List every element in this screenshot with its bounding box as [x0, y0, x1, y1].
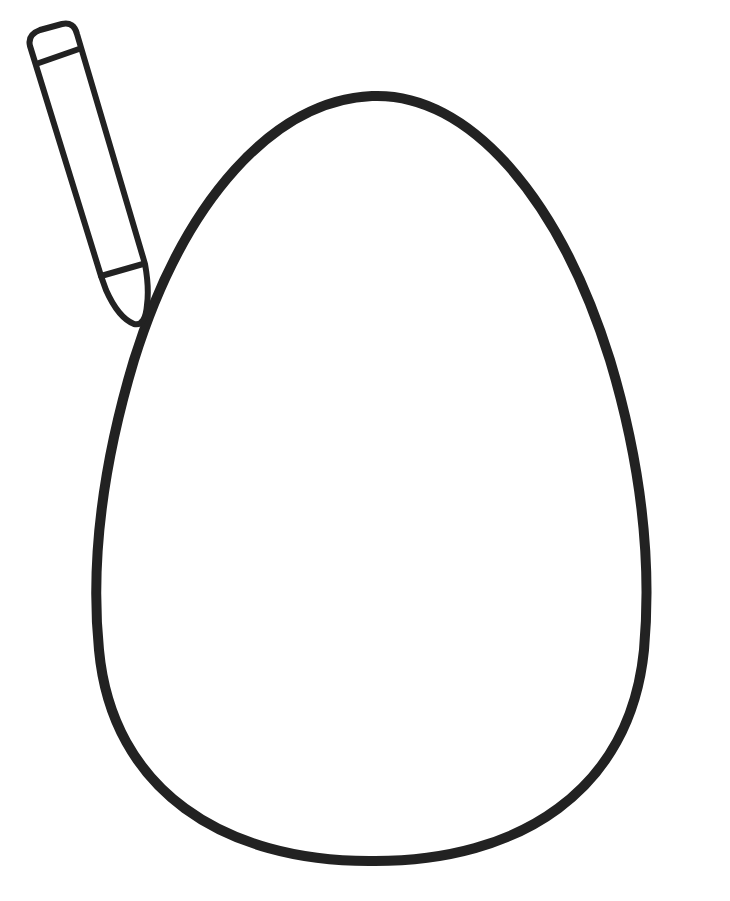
drawing-canvas — [0, 0, 730, 901]
coloring-page: Egg coloring page — [0, 0, 730, 901]
crayon-icon — [29, 23, 147, 324]
egg-outline — [96, 96, 646, 861]
